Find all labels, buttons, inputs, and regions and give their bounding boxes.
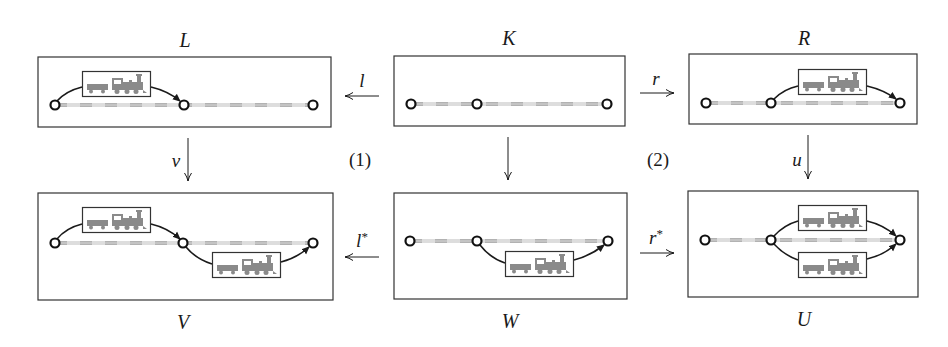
node — [51, 101, 60, 110]
node — [701, 236, 710, 245]
node — [896, 99, 905, 108]
graph-R — [689, 54, 917, 124]
node — [406, 237, 415, 246]
graph-U — [688, 191, 918, 297]
node — [180, 101, 189, 110]
node — [309, 239, 318, 248]
graph-V — [38, 193, 333, 300]
double-pushout-diagram — [0, 0, 948, 347]
morphism-label-r-star: r* — [649, 227, 663, 247]
node — [767, 236, 776, 245]
object-label-K: K — [502, 28, 515, 48]
object-label-V: V — [177, 312, 189, 332]
node — [702, 99, 711, 108]
train-icon — [506, 252, 574, 277]
graph-W — [394, 193, 627, 299]
train-icon — [799, 253, 867, 278]
train-icon — [83, 208, 151, 233]
morphism-label-v: v — [172, 151, 180, 170]
morphism-label-u: u — [792, 150, 802, 169]
node — [473, 237, 482, 246]
morphism-label-l-star: l* — [356, 230, 368, 250]
graph-K — [394, 56, 625, 126]
train-icon — [213, 253, 281, 278]
node — [767, 99, 776, 108]
square-label-2: (2) — [647, 150, 669, 169]
morphism-label-l: l — [359, 71, 364, 90]
r-star-sup: * — [656, 226, 663, 241]
node — [473, 100, 482, 109]
object-label-L: L — [179, 30, 190, 50]
l-star-sup: * — [361, 229, 368, 244]
object-label-W: W — [502, 311, 519, 331]
square-label-1: (1) — [349, 150, 371, 169]
node — [603, 100, 612, 109]
node — [604, 237, 613, 246]
morphism-label-r: r — [652, 69, 659, 88]
graph-L — [38, 57, 331, 127]
node — [407, 100, 416, 109]
object-label-U: U — [797, 309, 811, 329]
node — [179, 239, 188, 248]
node — [309, 101, 318, 110]
train-icon — [799, 70, 867, 95]
node — [51, 239, 60, 248]
train-icon — [83, 72, 151, 97]
node — [896, 236, 905, 245]
object-label-R: R — [798, 28, 810, 48]
train-icon — [799, 206, 867, 231]
